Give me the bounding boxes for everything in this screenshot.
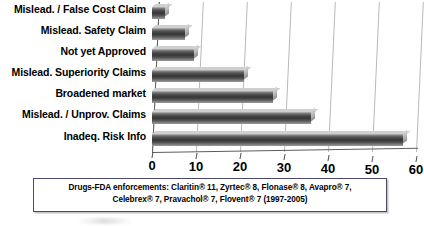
caption-line-1: Drugs-FDA enforcements: Claritin® 11, Zy… <box>34 182 386 194</box>
scan-artifact <box>78 218 132 224</box>
bar-not-yet-approved <box>152 49 194 60</box>
bar-end-cap <box>244 65 248 79</box>
plot-area: 0 10 20 30 40 50 60 <box>150 0 423 155</box>
xtick-label-0: 0 <box>148 158 155 173</box>
bar-mislead-false-cost-claim <box>152 7 165 18</box>
category-axis-labels: Mislead. / False Cost Claim Mislead. Saf… <box>0 0 148 155</box>
category-label-3: Mislead. Superiority Claims <box>12 66 146 78</box>
bar-body <box>152 134 403 146</box>
xtick-label-60: 60 <box>409 162 423 177</box>
bar-body <box>152 49 194 61</box>
gridline-30 <box>284 2 292 152</box>
caption-box: Drugs-FDA enforcements: Claritin® 11, Zy… <box>33 178 387 212</box>
category-label-2: Not yet Approved <box>60 45 146 57</box>
bar-mislead-safety-claim <box>152 28 185 39</box>
xtick-label-40: 40 <box>321 161 335 176</box>
category-label-5: Mislead. / Unprov. Claims <box>22 108 146 120</box>
bar-mislead-superiority-claims <box>152 70 244 81</box>
bar-body <box>152 70 244 82</box>
bar-end-cap <box>403 129 407 143</box>
bar-end-cap <box>165 2 169 16</box>
bar-body <box>152 112 311 124</box>
caption-text: Drugs-FDA enforcements: Claritin® 11, Zy… <box>34 182 386 205</box>
xtick-label-10: 10 <box>189 159 203 174</box>
xtick-label-30: 30 <box>277 160 291 175</box>
bar-mislead-unprov-claims <box>152 112 311 123</box>
gridline-50 <box>372 2 380 152</box>
xtick-label-50: 50 <box>365 162 379 177</box>
bar-end-cap <box>311 107 315 121</box>
bar-end-cap <box>185 23 189 37</box>
bar-body <box>152 91 273 103</box>
caption-line-2: Celebrex® 7, Pravachol® 7, Flovent® 7 (1… <box>34 194 386 206</box>
bar-broadened-market <box>152 91 273 102</box>
gridline-40 <box>328 2 336 152</box>
xtick-label-20: 20 <box>233 159 247 174</box>
bar-end-cap <box>273 86 277 100</box>
gridline-60 <box>416 2 424 152</box>
bar-end-cap <box>194 44 198 58</box>
bar-body <box>152 28 185 40</box>
category-label-4: Broadened market <box>55 87 146 99</box>
bar-inadeq-risk-info <box>152 134 403 145</box>
category-label-1: Mislead. Safety Claim <box>41 24 146 36</box>
category-label-6: Inadeq. Risk Info <box>64 130 146 142</box>
category-label-0: Mislead. / False Cost Claim <box>14 3 146 15</box>
bar-body <box>152 7 165 19</box>
